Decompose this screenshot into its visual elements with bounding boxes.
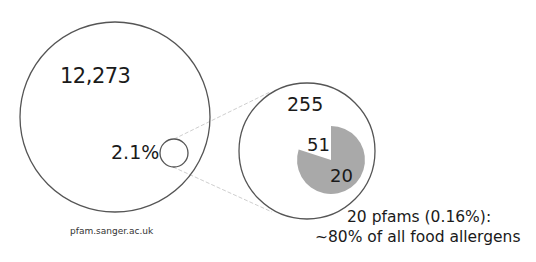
outer-circle-label: 12,273 [60, 66, 130, 87]
caption-line-1: 20 pfams (0.16%): [347, 210, 491, 226]
pie-white-label: 51 [307, 136, 330, 154]
outer-circle [20, 22, 210, 212]
caption-line-2: ~80% of all food allergens [315, 230, 520, 246]
subset-percent-label: 2.1% [111, 143, 159, 162]
pie-gray-label: 20 [330, 167, 353, 185]
zoom-circle-label: 255 [287, 95, 323, 114]
subset-circle [160, 139, 188, 167]
source-label: pfam.sanger.ac.uk [70, 227, 153, 236]
